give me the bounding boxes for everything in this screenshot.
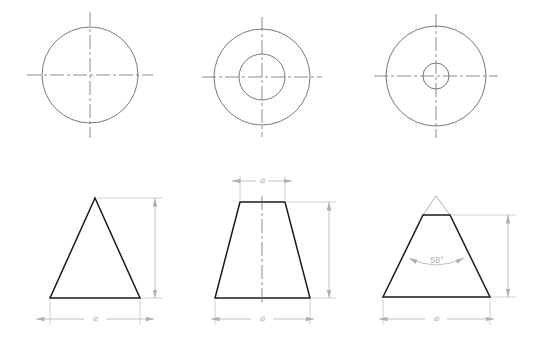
base-diameter-label: ⌀ [260,313,266,323]
top-diameter-label: ⌀ [260,175,266,185]
angle-label: 58° [430,255,444,265]
base-diameter-label: ⌀ [434,313,440,323]
top-view-frustum [202,17,322,137]
top-view-cone [27,12,153,138]
drawing-canvas: ⌀ ⌀ ⌀ [0,0,540,342]
front-view-frustum: ⌀ ⌀ [211,175,336,325]
base-diameter-label: ⌀ [93,313,99,323]
cone-outline [50,198,140,298]
front-view-truncated-cone: 58° ⌀ [379,196,516,325]
top-view-truncated-cone [374,14,498,138]
frustum-outline [215,202,310,298]
phantom-apex-lines [423,196,450,215]
front-view-cone: ⌀ [36,198,162,325]
drawing-sheet: ⌀ ⌀ ⌀ [0,0,540,342]
